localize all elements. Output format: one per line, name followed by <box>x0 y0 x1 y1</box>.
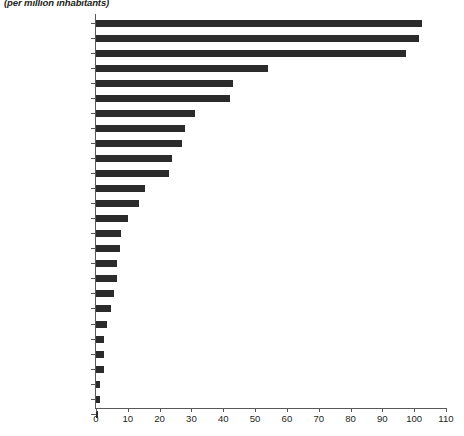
x-axis-tick-label: 10 <box>122 413 133 424</box>
bar <box>96 110 195 117</box>
x-axis-tick <box>191 408 192 412</box>
x-axis-tick <box>287 408 288 412</box>
bar <box>96 305 111 312</box>
x-axis-tick-label: 80 <box>345 413 356 424</box>
x-axis-tick <box>382 408 383 412</box>
y-axis-line <box>95 14 96 408</box>
x-axis-tick-label: 20 <box>154 413 165 424</box>
bar <box>96 351 104 358</box>
bar <box>96 230 121 237</box>
bar <box>96 245 120 252</box>
x-axis-tick <box>96 408 97 412</box>
bar <box>96 185 145 192</box>
x-axis-tick <box>446 408 447 412</box>
x-axis-tick-label: 110 <box>438 413 453 424</box>
x-axis-tick-label: 0 <box>93 413 98 424</box>
x-axis-tick <box>128 408 129 412</box>
x-axis-tick <box>255 408 256 412</box>
bar <box>96 275 117 282</box>
bar <box>96 80 233 87</box>
bar-chart: (per million inhabitants) United Kingdom… <box>0 0 464 436</box>
bar <box>96 200 139 207</box>
x-axis-tick-label: 100 <box>406 413 422 424</box>
x-axis-tick <box>160 408 161 412</box>
x-axis-tick-label: 90 <box>377 413 388 424</box>
x-axis-tick-label: 60 <box>282 413 293 424</box>
x-axis-tick <box>414 408 415 412</box>
bar <box>96 381 100 388</box>
bar <box>96 65 268 72</box>
bar <box>96 140 182 147</box>
plot-area: United KingdomUnited StatesDenmarkPortug… <box>0 0 464 436</box>
bar <box>96 336 104 343</box>
bar <box>96 321 107 328</box>
x-axis-tick-label: 30 <box>186 413 197 424</box>
bar <box>96 125 185 132</box>
x-axis-tick <box>351 408 352 412</box>
bar <box>96 215 128 222</box>
bar <box>96 20 422 27</box>
bar <box>96 396 100 403</box>
x-axis-line <box>95 408 446 409</box>
x-axis-tick <box>319 408 320 412</box>
x-axis-tick <box>223 408 224 412</box>
bar <box>96 260 117 267</box>
x-axis-tick-label: 40 <box>218 413 229 424</box>
bar <box>96 366 104 373</box>
bar <box>96 35 419 42</box>
bar <box>96 155 172 162</box>
bar <box>96 290 114 297</box>
x-axis-tick-label: 50 <box>250 413 261 424</box>
bar <box>96 95 230 102</box>
x-axis-tick-label: 70 <box>313 413 324 424</box>
bar <box>96 170 169 177</box>
bar <box>96 50 406 57</box>
